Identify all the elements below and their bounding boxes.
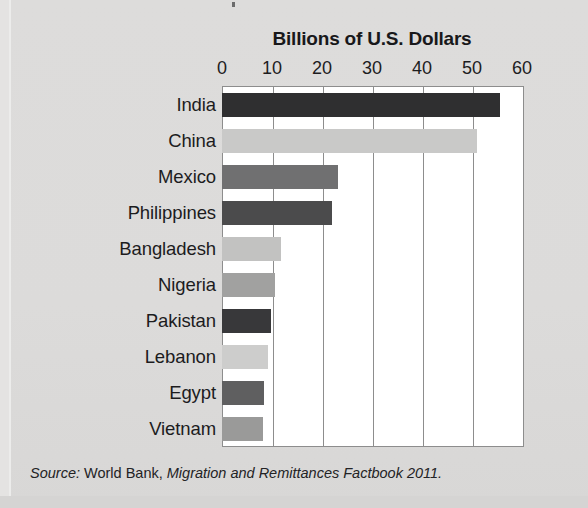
page-edge-outer [0, 0, 9, 508]
bar-lebanon [222, 345, 268, 369]
bar-row [222, 123, 524, 159]
source-label: Source: [30, 465, 80, 481]
chart-figure: Billions of U.S. Dollars 0102030405060 I… [0, 0, 588, 508]
scan-artifact [232, 2, 235, 7]
page-edge-inner [9, 0, 11, 508]
bar-row [222, 87, 524, 123]
bar-mexico [222, 165, 338, 189]
page-edge-bottom [0, 496, 588, 508]
x-tick-label: 60 [502, 58, 542, 79]
bar-vietnam [222, 417, 263, 441]
category-label-egypt: Egypt [40, 375, 216, 411]
bar-row [222, 375, 524, 411]
bar-row [222, 267, 524, 303]
bar-row [222, 303, 524, 339]
y-axis-category-labels: IndiaChinaMexicoPhilippinesBangladeshNig… [40, 86, 216, 447]
bar-philippines [222, 201, 332, 225]
chart-title: Billions of U.S. Dollars [222, 28, 522, 50]
bar-india [222, 93, 500, 117]
bar-pakistan [222, 309, 271, 333]
category-label-nigeria: Nigeria [40, 267, 216, 303]
bar-row [222, 159, 524, 195]
category-label-mexico: Mexico [40, 159, 216, 195]
bar-row [222, 195, 524, 231]
x-tick-label: 30 [352, 58, 392, 79]
bar-row [222, 411, 524, 447]
bar-egypt [222, 381, 264, 405]
x-tick-label: 50 [452, 58, 492, 79]
category-label-china: China [40, 123, 216, 159]
category-label-vietnam: Vietnam [40, 411, 216, 447]
x-tick-label: 10 [252, 58, 292, 79]
category-label-bangladesh: Bangladesh [40, 231, 216, 267]
x-tick-label: 20 [302, 58, 342, 79]
bar-series [222, 86, 524, 447]
bar-china [222, 129, 477, 153]
source-publication-title: Migration and Remittances Factbook 2011. [163, 465, 442, 481]
x-tick-label: 40 [402, 58, 442, 79]
bar-row [222, 231, 524, 267]
source-note: Source: World Bank, Migration and Remitt… [30, 465, 442, 481]
category-label-lebanon: Lebanon [40, 339, 216, 375]
category-label-pakistan: Pakistan [40, 303, 216, 339]
bar-bangladesh [222, 237, 281, 261]
category-label-philippines: Philippines [40, 195, 216, 231]
source-organization: World Bank, [80, 465, 163, 481]
category-label-india: India [40, 87, 216, 123]
x-tick-label: 0 [202, 58, 242, 79]
bar-nigeria [222, 273, 275, 297]
bar-row [222, 339, 524, 375]
x-axis-tick-labels: 0102030405060 [222, 58, 522, 80]
